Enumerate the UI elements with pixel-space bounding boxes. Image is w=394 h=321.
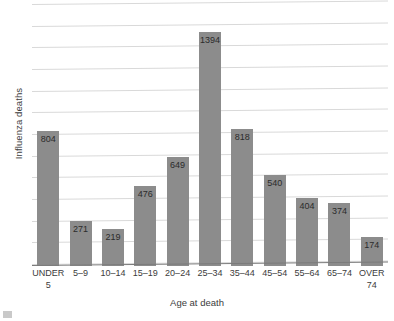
- bar-group[interactable]: 804: [37, 4, 59, 266]
- bar-group[interactable]: 404: [296, 4, 318, 266]
- influenza-deaths-bar-chart: Influenza deaths 80427121947664913948185…: [0, 0, 394, 321]
- bar-rect[interactable]: [37, 131, 59, 266]
- category-label: OVER74: [346, 268, 394, 291]
- x-axis-title: Age at death: [0, 297, 394, 308]
- scan-artifact-mark: [3, 311, 12, 318]
- bar-value-label: 404: [289, 201, 325, 211]
- bar-group[interactable]: 476: [134, 4, 156, 266]
- bar-rect[interactable]: [167, 157, 189, 266]
- bar-group[interactable]: 818: [231, 4, 253, 266]
- bar-value-label: 818: [224, 132, 260, 142]
- category-label-line: 74: [346, 280, 394, 292]
- bar-rect[interactable]: [231, 129, 253, 266]
- bar-group[interactable]: 1394: [199, 4, 221, 266]
- bar-group[interactable]: 219: [102, 4, 124, 266]
- bar-value-label: 540: [257, 178, 293, 188]
- category-label-line: 5: [22, 280, 74, 292]
- bars-layer: 8042712194766491394818540404374174: [32, 4, 388, 266]
- bar-value-label: 374: [321, 206, 357, 216]
- bar-rect[interactable]: [199, 32, 221, 266]
- bar-value-label: 219: [95, 232, 131, 242]
- bar-value-label: 174: [354, 240, 390, 250]
- bar-group[interactable]: 374: [328, 4, 350, 266]
- bar-rect[interactable]: [264, 175, 286, 266]
- bar-group[interactable]: 271: [70, 4, 92, 266]
- bar-value-label: 271: [63, 224, 99, 234]
- y-axis-title: Influenza deaths: [13, 54, 24, 194]
- bar-value-label: 476: [127, 189, 163, 199]
- bar-group[interactable]: 649: [167, 4, 189, 266]
- category-label-line: OVER: [346, 268, 394, 280]
- bar-value-label: 1394: [192, 35, 228, 45]
- category-axis-labels: UNDER55–910–1415–1920–2425–3435–4445–545…: [32, 268, 388, 300]
- bar-group[interactable]: 540: [264, 4, 286, 266]
- bar-group[interactable]: 174: [361, 4, 383, 266]
- bar-value-label: 649: [160, 160, 196, 170]
- plot-area: 8042712194766491394818540404374174: [32, 4, 388, 266]
- bar-value-label: 804: [30, 134, 66, 144]
